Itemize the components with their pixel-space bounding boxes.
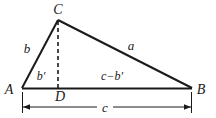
segment-label-b-prime: b′ <box>37 69 46 83</box>
side-label-b: b <box>24 41 31 56</box>
vertex-label-A: A <box>4 82 14 97</box>
segment-CB-side-a <box>58 20 192 88</box>
triangle-altitude-figure: A B C D b a b′ c−b′ c <box>0 0 216 118</box>
side-label-a: a <box>128 38 135 53</box>
vertex-label-D: D <box>54 89 65 104</box>
dimension-label-c: c <box>102 100 108 115</box>
vertex-label-B: B <box>197 82 206 97</box>
geometry-diagram-canvas: A B C D b a b′ c−b′ c <box>0 0 216 118</box>
left-arrow-icon <box>23 104 30 110</box>
right-arrow-icon <box>184 104 191 110</box>
vertex-label-C: C <box>53 2 63 17</box>
segment-label-c-minus-b-prime: c−b′ <box>101 69 123 83</box>
